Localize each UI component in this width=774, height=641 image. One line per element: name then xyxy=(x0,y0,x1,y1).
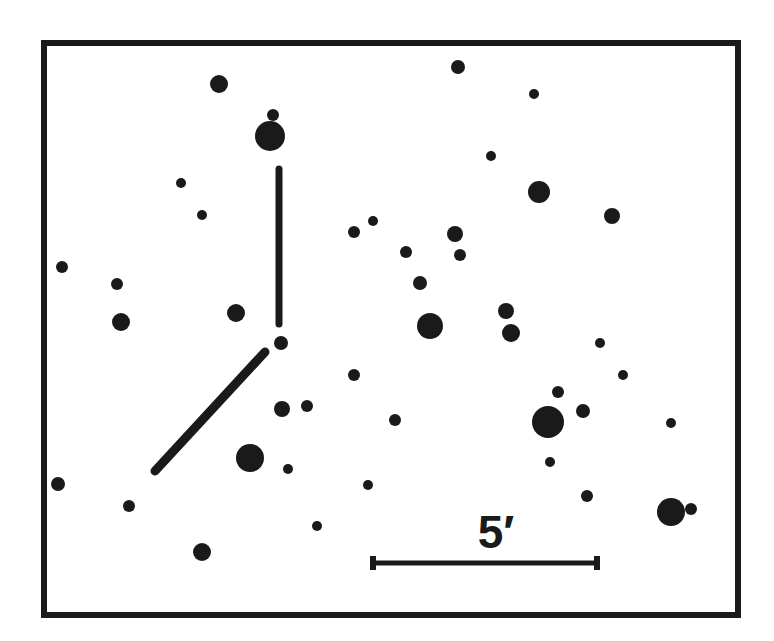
star xyxy=(502,324,520,342)
star xyxy=(666,418,676,428)
star xyxy=(123,500,135,512)
star xyxy=(413,276,427,290)
star xyxy=(176,178,186,188)
star xyxy=(236,444,264,472)
finder-chart: 5′ xyxy=(0,0,774,641)
star xyxy=(552,386,564,398)
star xyxy=(529,89,539,99)
star xyxy=(255,121,285,151)
scale-bar-label: 5′ xyxy=(478,506,515,558)
star xyxy=(363,480,373,490)
star xyxy=(604,208,620,224)
target-star xyxy=(274,336,288,350)
star xyxy=(274,401,290,417)
star xyxy=(657,498,685,526)
star xyxy=(348,369,360,381)
star xyxy=(498,303,514,319)
star xyxy=(545,457,555,467)
star xyxy=(51,477,65,491)
star xyxy=(685,503,697,515)
star xyxy=(283,464,293,474)
star xyxy=(618,370,628,380)
star xyxy=(368,216,378,226)
star xyxy=(581,490,593,502)
star xyxy=(528,181,550,203)
star xyxy=(312,521,322,531)
star xyxy=(56,261,68,273)
star xyxy=(210,75,228,93)
star xyxy=(111,278,123,290)
star xyxy=(193,543,211,561)
star xyxy=(348,226,360,238)
star xyxy=(532,406,564,438)
star xyxy=(301,400,313,412)
star xyxy=(447,226,463,242)
star xyxy=(417,313,443,339)
star xyxy=(197,210,207,220)
star xyxy=(227,304,245,322)
star xyxy=(112,313,130,331)
star xyxy=(576,404,590,418)
star xyxy=(267,109,279,121)
star xyxy=(595,338,605,348)
star xyxy=(389,414,401,426)
star xyxy=(454,249,466,261)
star xyxy=(400,246,412,258)
star xyxy=(451,60,465,74)
star xyxy=(486,151,496,161)
